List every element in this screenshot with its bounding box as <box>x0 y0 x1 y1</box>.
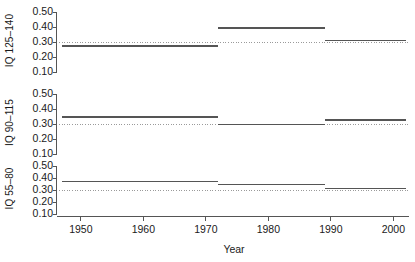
x-axis-title: Year <box>174 243 294 255</box>
y-tick-label: 0.40 <box>14 20 53 32</box>
x-tick-label: 1970 <box>181 223 231 235</box>
y-tick-label: 0.20 <box>14 132 53 144</box>
y-axis-title-iq-90-115: IQ 90–115 <box>4 88 15 158</box>
x-tick-label: 1980 <box>243 223 293 235</box>
y-tick-label: 0.10 <box>14 207 53 219</box>
y-tick-label: 0.50 <box>14 5 53 17</box>
y-tick-label: 0.30 <box>14 117 53 129</box>
y-axis-title-iq-55-80: IQ 55–80 <box>4 154 15 224</box>
y-tick-label: 0.10 <box>14 65 53 77</box>
y-tick-label: 0.50 <box>14 87 53 99</box>
y-tick-label: 0.30 <box>14 35 53 47</box>
y-tick-label: 0.50 <box>14 159 53 171</box>
x-tick-label: 1990 <box>306 223 356 235</box>
x-tick-label: 2000 <box>368 223 415 235</box>
x-tick-label: 1950 <box>56 223 106 235</box>
y-axis-title-iq-125-140: IQ 125–140 <box>4 6 15 76</box>
y-tick-label: 0.30 <box>14 183 53 195</box>
y-tick-label: 0.40 <box>14 102 53 114</box>
y-tick-label: 0.40 <box>14 171 53 183</box>
x-tick-label: 1960 <box>118 223 168 235</box>
y-tick-label: 0.10 <box>14 147 53 159</box>
y-tick-label: 0.20 <box>14 50 53 62</box>
chart-figure: IQ 125–1400.100.200.300.400.50IQ 90–1150… <box>0 0 415 262</box>
y-tick-label: 0.20 <box>14 195 53 207</box>
